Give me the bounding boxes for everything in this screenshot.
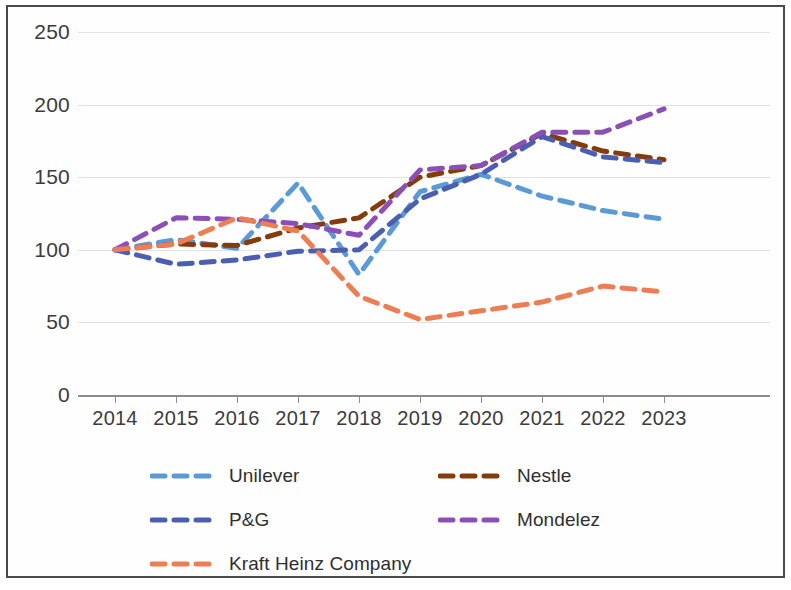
legend-label-pg: P&G [229, 509, 269, 531]
legend-label-mondelez: Mondelez [517, 509, 600, 531]
legend-item-kraft-heinz[interactable]: Kraft Heinz Company [150, 551, 411, 577]
legend-item-pg[interactable]: P&G [150, 507, 269, 533]
legend-swatch-pg [150, 507, 220, 533]
series-line-mondelez [115, 109, 664, 250]
legend-swatch-unilever [150, 463, 220, 489]
legend-swatch-nestle [438, 463, 508, 489]
legend-item-unilever[interactable]: Unilever [150, 463, 300, 489]
chart-legend: Unilever Nestle P&G Mondelez Kraft Heinz… [150, 455, 710, 575]
legend-swatch-mondelez [438, 507, 508, 533]
legend-swatch-kraft-heinz [150, 551, 220, 577]
legend-item-mondelez[interactable]: Mondelez [438, 507, 600, 533]
legend-label-unilever: Unilever [229, 465, 300, 487]
chart-page: 250 200 150 100 50 0 2014 2015 2016 2017… [0, 0, 791, 590]
legend-label-kraft-heinz: Kraft Heinz Company [229, 553, 411, 575]
legend-label-nestle: Nestle [517, 465, 571, 487]
legend-item-nestle[interactable]: Nestle [438, 463, 571, 489]
